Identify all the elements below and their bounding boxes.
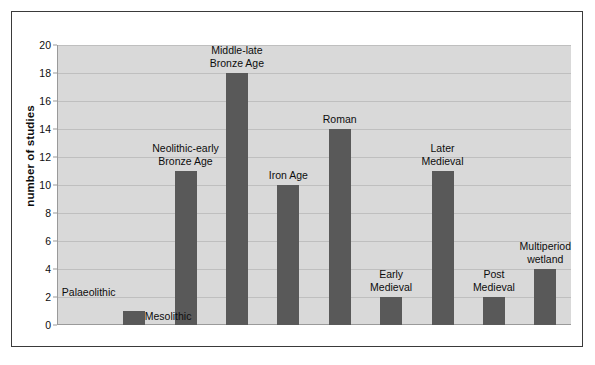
y-tick-mark-6 — [53, 241, 57, 242]
y-tick-mark-4 — [53, 269, 57, 270]
bar-early-medieval[interactable] — [380, 297, 402, 325]
bar-label-multiperiod-wetland: Multiperiod wetland — [520, 240, 571, 266]
y-tick-label-20: 20 — [39, 39, 51, 51]
gridline-20 — [57, 45, 571, 46]
bar-label-post-medieval: Post Medieval — [473, 268, 515, 294]
gridline-16 — [57, 101, 571, 102]
y-tick-label-12: 12 — [39, 151, 51, 163]
bar-label-middle-late-bronze-age: Middle-late Bronze Age — [210, 44, 264, 70]
bar-label-iron-age: Iron Age — [269, 169, 308, 182]
gridline-12 — [57, 157, 571, 158]
bar-label-roman: Roman — [323, 113, 357, 126]
plot-area: 02468101214161820 PalaeolithicMesolithic… — [57, 45, 571, 325]
y-tick-mark-14 — [53, 129, 57, 130]
y-tick-mark-2 — [53, 297, 57, 298]
y-tick-label-10: 10 — [39, 179, 51, 191]
bar-label-mesolithic: Mesolithic — [145, 310, 192, 323]
y-tick-mark-20 — [53, 45, 57, 46]
y-tick-label-16: 16 — [39, 95, 51, 107]
gridline-14 — [57, 129, 571, 130]
bar-roman[interactable] — [329, 129, 351, 325]
gridline-18 — [57, 73, 571, 74]
bar-multiperiod-wetland[interactable] — [534, 269, 556, 325]
bar-post-medieval[interactable] — [483, 297, 505, 325]
bar-mesolithic[interactable] — [123, 311, 145, 325]
bar-neolithic-early-bronze-age[interactable] — [175, 171, 197, 325]
bar-label-neolithic-early-bronze-age: Neolithic-early Bronze Age — [152, 142, 219, 168]
bar-chart-figure: number of studies 02468101214161820 Pala… — [0, 0, 595, 365]
bar-label-later-medieval: Later Medieval — [421, 142, 463, 168]
y-tick-label-18: 18 — [39, 67, 51, 79]
y-tick-mark-0 — [53, 325, 57, 326]
gridline-10 — [57, 185, 571, 186]
y-tick-mark-8 — [53, 213, 57, 214]
y-tick-mark-18 — [53, 73, 57, 74]
y-tick-label-14: 14 — [39, 123, 51, 135]
bar-later-medieval[interactable] — [432, 171, 454, 325]
y-tick-label-2: 2 — [45, 291, 51, 303]
gridline-8 — [57, 213, 571, 214]
bar-iron-age[interactable] — [277, 185, 299, 325]
y-tick-mark-12 — [53, 157, 57, 158]
bar-label-palaeolithic: Palaeolithic — [62, 286, 116, 299]
gridline-6 — [57, 241, 571, 242]
bar-label-early-medieval: Early Medieval — [370, 268, 412, 294]
y-tick-label-0: 0 — [45, 319, 51, 331]
bar-middle-late-bronze-age[interactable] — [226, 73, 248, 325]
y-tick-mark-16 — [53, 101, 57, 102]
y-tick-label-8: 8 — [45, 207, 51, 219]
y-tick-label-6: 6 — [45, 235, 51, 247]
y-tick-label-4: 4 — [45, 263, 51, 275]
y-axis-line — [57, 45, 58, 325]
y-tick-mark-10 — [53, 185, 57, 186]
y-axis-title: number of studies — [24, 76, 36, 236]
